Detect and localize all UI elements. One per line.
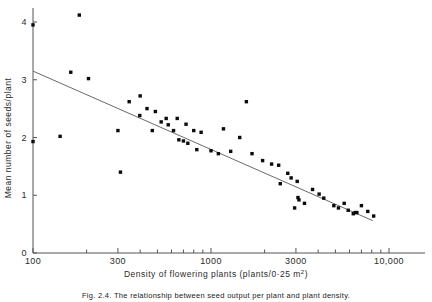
data-point — [360, 204, 363, 207]
x-axis-title: Density of flowering plants (plants/0·25… — [124, 269, 308, 279]
x-tick-label: 100 — [25, 256, 41, 266]
data-point — [279, 182, 282, 185]
data-point — [222, 127, 225, 130]
data-point — [322, 196, 325, 199]
data-point — [31, 23, 34, 26]
data-point — [317, 192, 320, 195]
regression-line — [33, 71, 373, 221]
data-point — [217, 152, 220, 155]
data-point — [192, 129, 195, 132]
data-point — [176, 117, 179, 120]
data-point — [116, 129, 119, 132]
data-point — [151, 129, 154, 132]
data-point — [238, 136, 241, 139]
data-point — [347, 209, 350, 212]
data-point — [261, 159, 264, 162]
data-point — [209, 149, 212, 152]
y-tick-label: 1 — [22, 190, 27, 200]
data-point — [119, 170, 122, 173]
y-tick-label: 2 — [22, 133, 27, 143]
data-point — [293, 206, 296, 209]
axes-group: 1003001000300010,00001234 — [22, 8, 425, 266]
data-point — [372, 214, 375, 217]
data-point — [78, 13, 81, 16]
data-point — [138, 94, 141, 97]
data-point — [87, 77, 90, 80]
y-tick-label: 0 — [22, 248, 27, 258]
regression-line-segment — [33, 71, 373, 221]
data-point — [159, 120, 162, 123]
data-point — [184, 123, 187, 126]
x-tick-label: 10,000 — [374, 256, 404, 266]
data-point — [250, 152, 253, 155]
data-point — [337, 206, 340, 209]
data-point — [199, 131, 202, 134]
data-point — [58, 135, 61, 138]
data-points-group — [31, 13, 375, 217]
y-tick-label: 4 — [22, 17, 27, 27]
data-point — [154, 110, 157, 113]
data-point — [138, 114, 141, 117]
data-point — [164, 117, 167, 120]
data-point — [311, 188, 314, 191]
y-tick-label: 3 — [22, 75, 27, 85]
x-tick-label: 300 — [110, 256, 126, 266]
data-point — [177, 138, 180, 141]
x-tick-label: 1000 — [200, 256, 222, 266]
data-point — [297, 198, 300, 201]
data-point — [277, 164, 280, 167]
data-point — [366, 210, 369, 213]
data-point — [342, 202, 345, 205]
y-axis-title: Mean number of seeds/plant — [3, 77, 13, 198]
data-point — [296, 180, 299, 183]
x-tick-label: 3000 — [285, 256, 307, 266]
data-point — [69, 71, 72, 74]
data-point — [195, 148, 198, 151]
data-point — [286, 172, 289, 175]
data-point — [167, 123, 170, 126]
data-point — [289, 176, 292, 179]
data-point — [172, 129, 175, 132]
data-point — [332, 204, 335, 207]
data-point — [182, 139, 185, 142]
data-point — [270, 162, 273, 165]
axis-labels-group: Mean number of seeds/plantDensity of flo… — [3, 77, 308, 279]
figure-caption: Fig. 2.4. The relationship between seed … — [82, 291, 350, 300]
data-point — [303, 202, 306, 205]
data-point — [127, 100, 130, 103]
data-point — [355, 211, 358, 214]
data-point — [186, 142, 189, 145]
data-point — [31, 140, 34, 143]
data-point — [145, 107, 148, 110]
data-point — [245, 100, 248, 103]
data-point — [229, 150, 232, 153]
